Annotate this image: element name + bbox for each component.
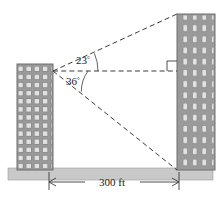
sight-line-up bbox=[53, 14, 177, 71]
angle-depression-label: 36° bbox=[66, 75, 80, 87]
dimension-label: 300 ft bbox=[99, 176, 125, 188]
trigonometry-diagram: 23° 36° 300 ft bbox=[0, 0, 221, 201]
angle-arc-elevation bbox=[94, 53, 98, 71]
sight-lines bbox=[53, 14, 177, 170]
right-angle-marker bbox=[167, 61, 177, 71]
right-building bbox=[177, 14, 215, 170]
angle-arc-depression bbox=[81, 71, 88, 92]
left-building bbox=[17, 64, 53, 170]
angle-elevation-label: 23° bbox=[76, 54, 90, 66]
